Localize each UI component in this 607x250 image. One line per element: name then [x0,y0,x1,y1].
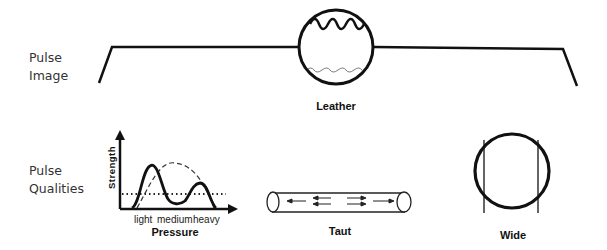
x-axis-arrow-icon [228,204,238,214]
y-axis-arrow-icon [115,130,125,140]
diagram-canvas [0,0,607,250]
pressure-graph [115,130,238,214]
taut-caption: Taut [315,225,365,237]
x-tick-light: light [134,214,152,225]
leather-caption: Leather [306,100,366,112]
x-tick-heavy: heavy [193,214,220,225]
strength-axis-label: Strength [106,146,117,189]
leather-pulse-circle [299,10,373,84]
pressure-axis-label: Pressure [140,226,210,238]
wide-caption: Wide [488,229,538,241]
taut-vessel [267,192,411,212]
x-tick-medium: medium [157,214,193,225]
wide-pulse [475,134,549,213]
